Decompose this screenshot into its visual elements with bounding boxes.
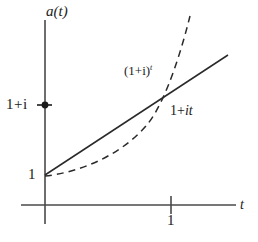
x-axis-label: t — [240, 198, 244, 212]
x-tick-label-1: 1 — [167, 213, 175, 228]
point-marker-1plusi — [42, 102, 49, 109]
y-origin-label-1: 1 — [28, 167, 36, 182]
curve-label-exponential: (1+i)t — [124, 64, 152, 77]
y-axis-label: a(t) — [46, 4, 68, 19]
curve-exponential-1plusi-power-t — [45, 16, 190, 176]
plot-canvas — [0, 0, 258, 242]
figure-compound-interest-accumulation: a(t) t 1+i 1 1 (1+i)t 1+it — [0, 0, 258, 242]
y-tick-label-1plusi: 1+i — [6, 97, 28, 112]
curve-label-linear: 1+it — [170, 104, 193, 118]
